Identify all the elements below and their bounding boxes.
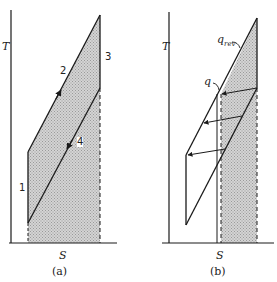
point-label-4: 4 (77, 137, 83, 147)
q-label: q (204, 76, 211, 87)
q-rev-sub: rev (224, 40, 235, 48)
caption-b: (b) (210, 266, 226, 277)
point-label-2: 2 (60, 66, 66, 76)
shaded-area-a (28, 15, 100, 243)
t-axis-label-a: T (2, 41, 9, 52)
t-axis-label-b: T (162, 41, 169, 52)
panel-a (9, 10, 117, 243)
caption-a: (a) (52, 266, 67, 277)
q-leader (213, 83, 219, 90)
point-label-1: 1 (19, 183, 25, 193)
s-axis-label-a: S (59, 250, 67, 261)
point-label-3: 3 (105, 52, 111, 62)
s-axis-label-b: S (216, 250, 224, 261)
q-rev-label: qrev (217, 34, 236, 48)
arrow-heat-3-icon (188, 149, 225, 155)
q-rev-main: q (217, 33, 224, 46)
